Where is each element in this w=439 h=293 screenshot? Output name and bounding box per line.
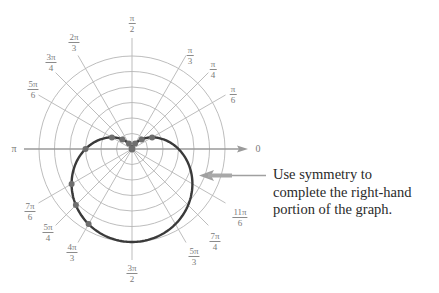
angle-label-11pi-over-6: 11π6 — [232, 208, 247, 228]
note-line-1: Use symmetry to — [273, 166, 439, 184]
angle-label-denominator: 2 — [130, 274, 135, 284]
plotted-point — [129, 146, 136, 153]
grid-ray — [132, 149, 208, 225]
angle-label-4pi-over-3: 4π3 — [66, 243, 77, 263]
angle-label-denominator: 4 — [211, 70, 216, 80]
angle-label-numerator: π — [187, 46, 194, 56]
grid-ray — [39, 95, 133, 149]
grid-ray — [132, 56, 186, 150]
symmetry-note: Use symmetry to complete the right-hand … — [273, 166, 439, 219]
plotted-point — [126, 141, 132, 147]
angle-label-5pi-over-4: 5π4 — [42, 223, 53, 243]
angle-label-denominator: 6 — [238, 218, 243, 228]
angle-label-5pi-over-3: 5π3 — [188, 247, 199, 267]
angle-label-numerator: 5π — [27, 80, 38, 90]
angle-label-pi-over-3: π3 — [187, 46, 194, 66]
angle-label-numerator: 3π — [45, 53, 56, 63]
angle-label-denominator: 4 — [49, 63, 54, 73]
plotted-point — [132, 141, 138, 147]
angle-label-denominator: 3 — [188, 56, 193, 66]
angle-label-numerator: 7π — [209, 232, 220, 242]
plotted-point — [109, 134, 115, 140]
angle-label-pi-over-6: π6 — [230, 85, 237, 105]
angle-label-pi-over-2: π2 — [129, 14, 136, 34]
axis-label-pi: π — [11, 143, 16, 154]
angle-label-numerator: π — [230, 85, 237, 95]
angle-label-denominator: 3 — [72, 43, 77, 53]
angle-label-numerator: 3π — [126, 264, 137, 274]
angle-label-pi-over-4: π4 — [210, 60, 217, 80]
angle-label-numerator: 2π — [68, 33, 79, 43]
axis-label-zero: 0 — [256, 143, 261, 154]
plotted-point — [119, 136, 125, 142]
angle-label-numerator: π — [210, 60, 217, 70]
angle-label-numerator: π — [129, 14, 136, 24]
angle-label-3pi-over-2: 3π2 — [126, 264, 137, 284]
angle-label-denominator: 4 — [213, 242, 218, 252]
grid-ray — [78, 149, 132, 243]
symmetry-arrow — [199, 170, 266, 181]
plotted-point — [69, 181, 75, 187]
angle-label-denominator: 2 — [130, 24, 135, 34]
angle-label-denominator: 6 — [231, 95, 236, 105]
angle-label-numerator: 5π — [42, 223, 53, 233]
plotted-point — [139, 136, 145, 142]
plotted-point — [149, 134, 155, 140]
grid-ray — [39, 149, 133, 203]
grid-ray — [132, 95, 226, 149]
angle-label-5pi-over-6: 5π6 — [27, 80, 38, 100]
grid-ray — [78, 56, 132, 150]
angle-label-2pi-over-3: 2π3 — [68, 33, 79, 53]
note-line-3: portion of the graph. — [273, 201, 439, 219]
angle-label-denominator: 6 — [31, 90, 36, 100]
angle-label-numerator: 4π — [66, 243, 77, 253]
plotted-point — [83, 146, 89, 152]
grid-ray — [56, 149, 132, 225]
angle-label-denominator: 4 — [46, 233, 51, 243]
angle-label-numerator: 5π — [188, 247, 199, 257]
angle-label-denominator: 6 — [28, 212, 33, 222]
angle-label-7pi-over-4: 7π4 — [209, 232, 220, 252]
angle-label-3pi-over-4: 3π4 — [45, 53, 56, 73]
angle-label-numerator: 11π — [232, 208, 247, 218]
plotted-point — [73, 202, 79, 208]
angle-label-denominator: 3 — [192, 257, 197, 267]
grid-ray — [132, 149, 186, 243]
angle-label-numerator: 7π — [24, 202, 35, 212]
angle-label-denominator: 3 — [70, 253, 75, 263]
note-line-2: complete the right-hand — [273, 184, 439, 202]
plotted-point — [86, 221, 92, 227]
angle-label-7pi-over-6: 7π6 — [24, 202, 35, 222]
